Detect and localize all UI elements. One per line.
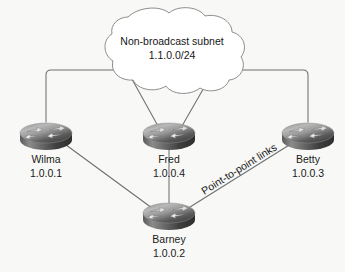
network-topology-diagram: Non-broadcast subnet 1.1.0.0/24 Wilma 1.… [0,0,345,272]
router-icon [143,203,195,230]
cloud-label-line1: Non-broadcast subnet [120,35,223,47]
router-icon [20,123,72,150]
router-betty-name: Betty [296,153,321,165]
router-fred-name: Fred [158,153,180,165]
router-wilma-name: Wilma [31,153,60,165]
router-betty-address: 1.0.0.3 [292,167,324,179]
cloud-label-line2: 1.1.0.0/24 [149,49,196,61]
router-icon [143,123,195,150]
router-barney-address: 1.0.0.2 [153,247,185,259]
router-icon [282,123,334,150]
router-fred-address: 1.0.0.4 [153,167,185,179]
router-wilma-address: 1.0.0.1 [30,167,62,179]
router-barney-name: Barney [152,233,186,245]
